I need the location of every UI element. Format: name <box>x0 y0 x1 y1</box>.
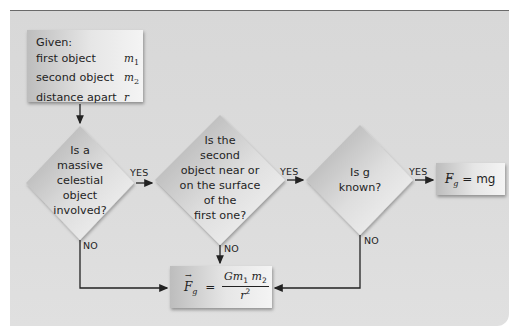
decision-2-no-label: NO <box>224 243 239 254</box>
result-gravitation-formula: →Fg = Gm1 m2 r2 <box>170 266 272 308</box>
given-row-second-object: second object m2 <box>36 70 143 90</box>
decision-1-yes-label: YES <box>130 167 148 178</box>
given-row-distance: distance apart r <box>36 90 143 106</box>
decision-2-text: Is the second object near or on the surf… <box>170 133 270 223</box>
decision-1-text: Is a massive celestial object involved? <box>40 143 120 218</box>
decision-1-no-label: NO <box>83 240 98 251</box>
decision-3-text: Is g known? <box>330 165 390 195</box>
given-box: Given: first object m1 second object m2 … <box>27 30 143 102</box>
decision-3-no-label: NO <box>364 235 379 246</box>
result-weight-formula: →Fg = mg <box>436 163 505 195</box>
fraction: Gm1 m2 r2 <box>222 270 269 302</box>
given-title: Given: <box>36 35 143 51</box>
given-row-first-object: first object m1 <box>36 51 143 71</box>
decision-3-yes-label: YES <box>409 166 427 177</box>
decision-2-yes-label: YES <box>280 166 298 177</box>
